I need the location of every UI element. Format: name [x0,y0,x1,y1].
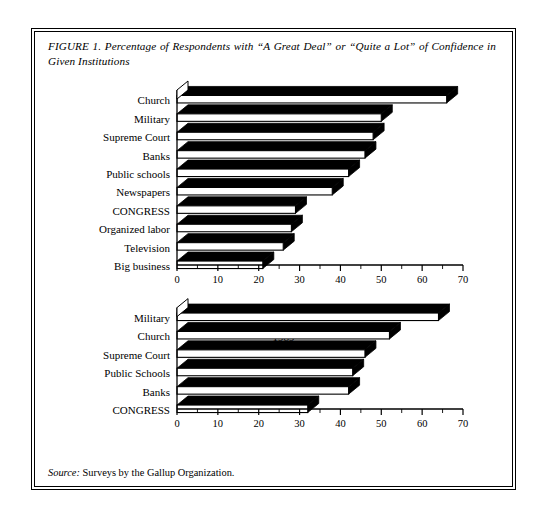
x-tick-label: 50 [376,418,387,429]
bar-chart-1-svg-0 [177,86,458,103]
chart-2-plot: CONGRESSBanksPublic SchoolsSupreme Court… [32,287,515,447]
figure-frame: FIGURE 1. Percentage of Respondents with… [31,28,516,490]
bar-chart-1-svg-7 [177,215,302,232]
category-label: Military [134,312,171,324]
x-tick-label: 70 [458,274,469,285]
x-tick-label: 30 [294,274,305,285]
bar-chart-1-svg-8 [177,234,294,251]
x-tick-label: 10 [213,418,224,429]
category-label: Military [134,113,171,125]
source-label: Source: [48,467,80,478]
category-label: Public schools [106,168,170,180]
category-label: Organized labor [99,223,170,235]
bar-chart-2-svg-2 [177,341,376,358]
bar-chart-1-svg-3 [177,142,376,159]
category-label: Church [138,330,171,342]
bar-chart-1-svg-1 [177,105,392,122]
x-tick-label: 60 [417,274,428,285]
bar-chart-2-svg-0 [177,304,449,321]
x-tick-label: 40 [335,418,346,429]
bar-chart-2-svg-5 [177,396,319,413]
bar-chart-2-svg-3 [177,359,364,376]
bar-chart-1-svg-4 [177,160,360,177]
bar-chart-2-svg-1 [177,322,400,339]
x-tick-label: 50 [376,274,387,285]
bar-chart-2-svg-4 [177,378,360,395]
x-tick-label: 30 [294,418,305,429]
category-label: Banks [143,150,171,162]
category-label: Big business [114,260,170,272]
category-label: Television [124,242,170,254]
x-tick-label: 10 [213,274,224,285]
source-note: Source: Surveys by the Gallup Organizati… [48,467,234,478]
x-tick-label: 40 [335,274,346,285]
category-label: Church [138,94,171,106]
category-label: Newspapers [116,186,170,198]
category-label: CONGRESS [113,205,170,217]
x-tick-label: 20 [253,418,264,429]
category-label: Supreme Court [103,131,170,143]
x-tick-label: 70 [458,418,469,429]
bar-chart-1-svg-6 [177,197,306,214]
source-text: Surveys by the Gallup Organization. [80,467,235,478]
category-label: CONGRESS [113,404,170,416]
chart-1-plot: Big businessTelevisionOrganized laborCON… [32,47,515,287]
x-tick-label: 0 [174,274,179,285]
x-tick-label: 20 [253,274,264,285]
x-tick-label: 0 [174,418,179,429]
category-label: Supreme Court [103,349,170,361]
x-tick-label: 60 [417,418,428,429]
category-label: Banks [143,386,171,398]
category-label: Public Schools [104,367,170,379]
bar-chart-1-svg-2 [177,123,384,140]
bar-chart-1-svg-5 [177,178,343,195]
